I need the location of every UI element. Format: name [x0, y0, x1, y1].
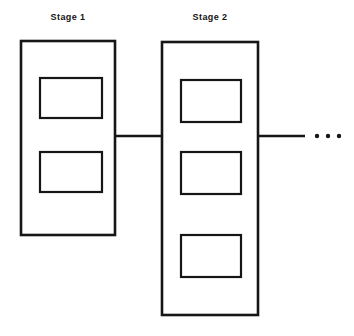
stage-diagram-canvas: Stage 1 Stage 2 — [0, 0, 354, 336]
stage-2-group — [162, 42, 258, 315]
stage-2-block-2 — [181, 152, 241, 194]
ellipsis-dot-3 — [337, 134, 341, 138]
stage-1-block-2 — [40, 152, 102, 192]
stage-1-group — [21, 41, 115, 235]
ellipsis-dot-2 — [326, 134, 330, 138]
stage-2-block-1 — [181, 80, 241, 122]
continuation-ellipsis — [315, 134, 341, 138]
stage-1-outer-box — [21, 41, 115, 235]
ellipsis-dot-1 — [315, 134, 319, 138]
stage-2-block-3 — [181, 235, 241, 277]
stage-1-block-1 — [40, 78, 102, 118]
diagram-vector-layer — [0, 0, 354, 336]
